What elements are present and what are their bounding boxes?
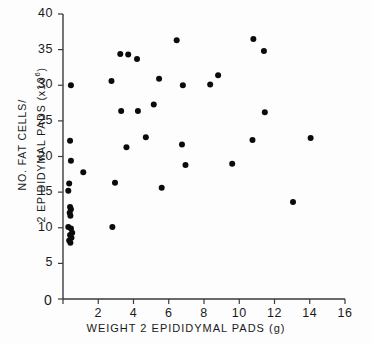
data-point	[215, 72, 221, 78]
data-point	[174, 37, 180, 43]
data-point	[180, 82, 186, 88]
data-point	[290, 199, 296, 205]
y-axis-title: NO. FAT CELLS/ 2 EPIDIDYMAL PADS (x106)	[15, 20, 49, 270]
data-point	[68, 158, 74, 164]
data-point	[308, 135, 314, 141]
data-point	[159, 185, 165, 191]
data-point	[151, 101, 157, 107]
y-tick-label-40: 40	[27, 6, 53, 20]
data-point	[67, 213, 73, 219]
data-point	[135, 108, 141, 114]
data-point	[109, 224, 115, 230]
data-point	[117, 51, 123, 57]
data-point	[143, 134, 149, 140]
x-tick-label-10: 10	[228, 306, 250, 320]
data-point	[249, 137, 255, 143]
data-point	[134, 56, 140, 62]
y-axis-title-line1: NO. FAT CELLS/	[16, 99, 28, 191]
data-point	[68, 82, 74, 88]
x-tick-label-16: 16	[334, 306, 356, 320]
data-point	[262, 109, 268, 115]
y-axis-title-line2-tail: )	[35, 67, 47, 71]
x-tick-label-4: 4	[123, 306, 145, 320]
data-point	[123, 144, 129, 150]
x-axis-title: WEIGHT 2 EPIDIDYMAL PADS (g)	[0, 322, 372, 334]
ticks-group	[58, 14, 345, 304]
data-point	[67, 138, 73, 144]
data-points-group	[65, 36, 313, 246]
data-point	[65, 188, 71, 194]
data-point	[108, 78, 114, 84]
data-point	[156, 76, 162, 82]
axes-group	[63, 14, 345, 299]
data-point	[125, 52, 131, 58]
x-tick-label-12: 12	[264, 306, 286, 320]
scatter-plot-figure: 510152025303540246810121416 0 WEIGHT 2 E…	[0, 0, 372, 345]
x-tick-label-6: 6	[158, 306, 180, 320]
y-axis-exponent: 6	[33, 72, 42, 77]
data-point	[179, 141, 185, 147]
data-point	[118, 108, 124, 114]
x-tick-label-14: 14	[299, 306, 321, 320]
x-tick-label-2: 2	[87, 306, 109, 320]
y-axis-title-line2: 2 EPIDIDYMAL PADS (x106)	[30, 20, 49, 270]
data-point	[66, 181, 72, 187]
data-point	[182, 162, 188, 168]
data-point	[112, 180, 118, 186]
data-point	[229, 161, 235, 167]
x-tick-label-8: 8	[193, 306, 215, 320]
plot-canvas	[0, 0, 372, 345]
origin-tick-label: 0	[44, 292, 52, 308]
y-axis-title-line2-text: 2 EPIDIDYMAL PADS (x10	[35, 77, 47, 223]
data-point	[67, 240, 73, 246]
data-point	[207, 82, 213, 88]
data-point	[250, 36, 256, 42]
data-point	[80, 169, 86, 175]
data-point	[261, 48, 267, 54]
